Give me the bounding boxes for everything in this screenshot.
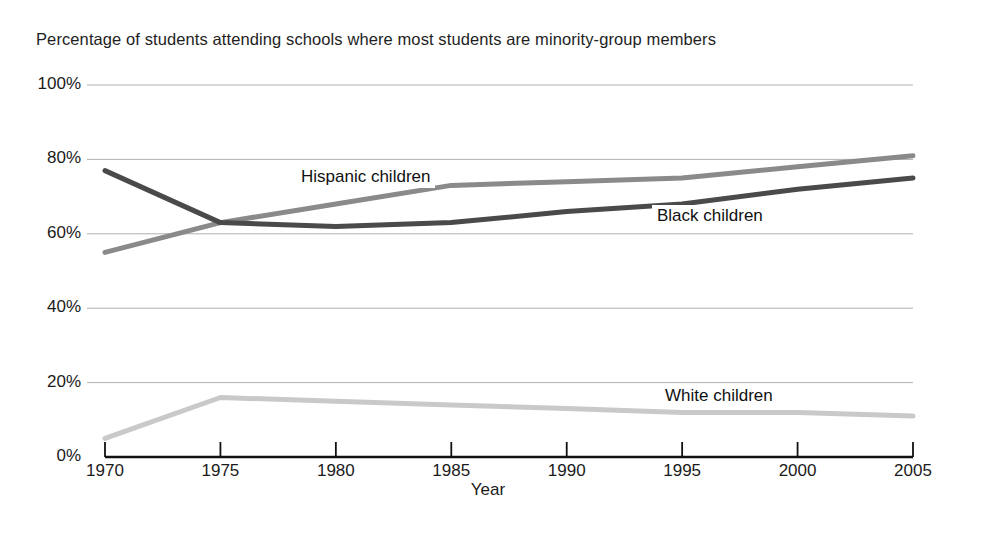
- x-axis-tick-label: 1995: [647, 461, 717, 481]
- series-line-black-children: [105, 171, 913, 227]
- y-axis-tick-label: 40%: [19, 297, 81, 317]
- series-annotation-black: Black children: [652, 205, 768, 227]
- x-axis-tick-label: 1975: [185, 461, 255, 481]
- x-axis-tick-label: 2000: [763, 461, 833, 481]
- series-lines-group: [105, 156, 913, 439]
- x-axis-tick-label: 1970: [70, 461, 140, 481]
- x-axis-ticks-group: [105, 442, 913, 457]
- series-line-white-children: [105, 398, 913, 439]
- series-line-hispanic-children: [105, 156, 913, 253]
- y-axis-tick-label: 80%: [19, 148, 81, 168]
- chart-container: Percentage of students attending schools…: [0, 0, 992, 538]
- series-annotation-hispanic: Hispanic children: [296, 166, 435, 188]
- gridlines-group: [87, 85, 913, 383]
- y-axis-tick-label: 20%: [19, 372, 81, 392]
- y-axis-tick-label: 60%: [19, 223, 81, 243]
- x-axis-title: Year: [388, 480, 588, 500]
- x-axis-tick-label: 1985: [416, 461, 486, 481]
- x-axis-tick-label: 2005: [878, 461, 948, 481]
- chart-plot-area: [0, 0, 992, 538]
- x-axis-tick-label: 1990: [532, 461, 602, 481]
- x-axis-tick-label: 1980: [301, 461, 371, 481]
- series-annotation-white: White children: [660, 385, 778, 407]
- y-axis-tick-label: 100%: [19, 74, 81, 94]
